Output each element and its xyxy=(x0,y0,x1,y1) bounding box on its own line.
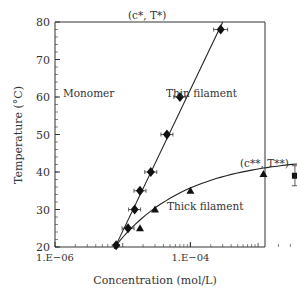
square-marker xyxy=(292,173,297,179)
phase-diagram-chart: 203040506070801.E−061.E−041.E−021.E−00 (… xyxy=(0,0,297,295)
triangle-marker xyxy=(186,187,194,194)
y-tick-label: 70 xyxy=(36,54,50,67)
triangle-marker xyxy=(136,224,144,231)
data-points xyxy=(112,25,297,251)
y-tick-label: 60 xyxy=(36,91,50,104)
diamond-marker xyxy=(147,167,155,177)
y-tick-label: 50 xyxy=(36,129,50,142)
region-label-monomer: Monomer xyxy=(63,87,115,99)
annotation-critical-point-1: (c*, T*) xyxy=(128,9,166,21)
annotation-critical-point-2: (c**, T**) xyxy=(240,157,289,169)
plot-frame xyxy=(55,22,265,247)
x-tick-label: 1.E−04 xyxy=(171,252,209,263)
x-tick-label: 1.E−06 xyxy=(36,252,74,263)
diamond-marker xyxy=(136,186,144,196)
x-axis-label: Concentration (mol/L) xyxy=(93,274,216,287)
triangle-marker xyxy=(259,170,267,177)
fit-curves xyxy=(114,22,297,249)
y-axis-label: Temperature (°C) xyxy=(12,86,25,184)
y-tick-label: 80 xyxy=(36,16,50,29)
y-tick-label: 30 xyxy=(36,204,50,217)
y-tick-label: 40 xyxy=(36,166,50,179)
region-label-thick: Thick filament xyxy=(167,200,244,212)
diamond-marker xyxy=(163,130,171,140)
region-label-thin: Thin filament xyxy=(166,87,238,99)
